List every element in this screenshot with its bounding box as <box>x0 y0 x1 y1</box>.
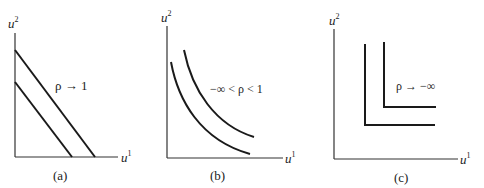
panel-c-y-label: u2 <box>329 12 340 28</box>
panel-a-annotation: ρ → 1 <box>55 78 88 93</box>
panel-b-x-label: u1 <box>285 150 296 166</box>
panel-a-x-label: u1 <box>121 149 132 165</box>
ces-indifference-diagram: u2 u1 ρ → 1 (a) u2 u1 −∞ < ρ < 1 (b) u2 … <box>0 0 484 188</box>
panel-c: u2 u1 ρ → −∞ (c) <box>329 12 471 185</box>
panel-a-y-label: u2 <box>8 15 19 31</box>
panel-c-curve-outer <box>384 42 436 107</box>
panel-b: u2 u1 −∞ < ρ < 1 (b) <box>161 9 296 183</box>
panel-b-annotation: −∞ < ρ < 1 <box>210 82 263 96</box>
panel-c-caption: (c) <box>394 170 408 185</box>
panel-c-annotation: ρ → −∞ <box>396 79 435 93</box>
panel-a-curve-inner <box>15 82 72 157</box>
panel-a-caption: (a) <box>53 168 67 183</box>
panel-a: u2 u1 ρ → 1 (a) <box>8 15 132 183</box>
panel-a-curve-outer <box>15 50 95 157</box>
panel-c-x-label: u1 <box>460 151 471 167</box>
panel-b-caption: (b) <box>210 168 225 183</box>
panel-b-y-label: u2 <box>161 9 172 25</box>
